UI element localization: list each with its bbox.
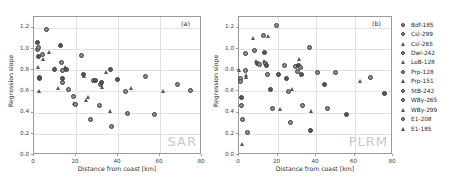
data-point [64, 67, 69, 72]
y-tick-label: 0.0 [214, 151, 234, 157]
x-tick-label: 40 [109, 158, 125, 164]
data-point [100, 85, 104, 89]
data-point [315, 70, 320, 75]
y-tickmark [31, 133, 33, 134]
data-point [73, 102, 78, 107]
figure-scatter-panels: Bdf-185Csl-299Csl-265Dwl-242LoB-128Prp-1… [0, 0, 456, 193]
data-point [123, 89, 128, 94]
legend-item[interactable]: Prp-151 [398, 77, 456, 86]
legend-item[interactable]: WBy-265 [398, 96, 456, 105]
y-tickmark [31, 27, 33, 28]
gridline-horizontal [34, 91, 200, 92]
y-tick-label: 1.2 [9, 23, 29, 29]
x-tickmark [117, 154, 118, 156]
data-point [344, 112, 349, 117]
legend-item[interactable]: Bdf-185 [398, 20, 456, 29]
data-point [278, 107, 282, 111]
data-point [47, 50, 51, 54]
triangle-marker-icon [398, 42, 408, 46]
legend-item[interactable]: Csl-265 [398, 39, 456, 48]
gridline-vertical [76, 17, 77, 153]
legend-label: E1-208 [411, 116, 432, 122]
x-tick-label: 40 [307, 158, 323, 164]
data-point [53, 66, 57, 70]
data-point [237, 68, 241, 72]
data-point [36, 65, 40, 69]
data-point [265, 72, 270, 77]
legend-item[interactable]: Csl-299 [398, 29, 456, 38]
y-tick-label: 1.0 [9, 45, 29, 51]
data-point [35, 40, 40, 45]
data-point [143, 74, 148, 79]
data-point [240, 142, 244, 146]
data-point [368, 75, 373, 80]
legend-item[interactable]: E1-208 [398, 114, 456, 123]
legend-item[interactable]: Dwl-242 [398, 48, 456, 57]
x-axis-title: Distance from coast [km] [276, 165, 354, 172]
data-point [266, 34, 270, 38]
data-point [125, 111, 130, 116]
y-tickmark [236, 112, 238, 113]
x-tickmark [354, 154, 355, 156]
circle-marker-icon [398, 89, 408, 93]
y-tick-label: 0.2 [214, 130, 234, 136]
legend-item[interactable]: LoB-128 [398, 58, 456, 67]
panel-tag: (b) [372, 20, 381, 28]
legend-label: WBy-299 [411, 107, 437, 113]
x-tickmark [238, 154, 239, 156]
circle-marker-icon [398, 70, 408, 74]
x-tick-label: 80 [193, 158, 209, 164]
data-point [309, 109, 313, 113]
y-tickmark [31, 69, 33, 70]
data-point [297, 57, 301, 61]
x-tick-label: 80 [384, 158, 400, 164]
legend-item[interactable]: E1-185 [398, 124, 456, 133]
data-point [268, 87, 273, 92]
gridline-vertical [278, 17, 279, 153]
x-tickmark [201, 154, 202, 156]
data-point [108, 67, 113, 72]
panel-watermark: SAR [168, 134, 197, 149]
y-tickmark [31, 48, 33, 49]
x-tick-label: 0 [230, 158, 246, 164]
gridline-horizontal [239, 91, 391, 92]
legend-item[interactable]: Prp-128 [398, 67, 456, 76]
y-tickmark [31, 112, 33, 113]
data-point [66, 87, 71, 92]
legend-label: Prp-128 [411, 69, 434, 75]
legend: Bdf-185Csl-299Csl-265Dwl-242LoB-128Prp-1… [398, 20, 456, 133]
legend-label: Bdf-185 [411, 22, 434, 28]
data-point [109, 124, 114, 129]
y-tick-label: 1.2 [214, 23, 234, 29]
circle-marker-icon [398, 117, 408, 121]
data-point [40, 52, 45, 57]
data-point [290, 87, 294, 91]
x-tickmark [392, 154, 393, 156]
legend-label: LoB-128 [411, 59, 435, 65]
x-tick-label: 60 [346, 158, 362, 164]
data-point [188, 88, 193, 93]
data-point [161, 89, 165, 93]
circle-marker-icon [398, 32, 408, 36]
gridline-horizontal [34, 113, 200, 114]
data-point [307, 45, 312, 50]
data-point [358, 79, 362, 83]
data-point [243, 51, 248, 56]
gridline-horizontal [239, 28, 391, 29]
data-point [284, 76, 289, 81]
triangle-marker-icon [398, 79, 408, 83]
y-tickmark [236, 69, 238, 70]
x-tick-label: 20 [67, 158, 83, 164]
y-tick-label: 0.2 [9, 130, 29, 136]
x-tickmark [75, 154, 76, 156]
y-axis-title: Regression slope [212, 55, 219, 107]
circle-marker-icon [398, 98, 408, 102]
data-point [244, 75, 248, 79]
data-point [97, 103, 102, 108]
legend-label: WBy-265 [411, 97, 437, 103]
legend-item[interactable]: StB-242 [398, 86, 456, 95]
legend-item[interactable]: WBy-299 [398, 105, 456, 114]
x-tick-label: 20 [269, 158, 285, 164]
data-point [152, 112, 157, 117]
x-tick-label: 60 [151, 158, 167, 164]
